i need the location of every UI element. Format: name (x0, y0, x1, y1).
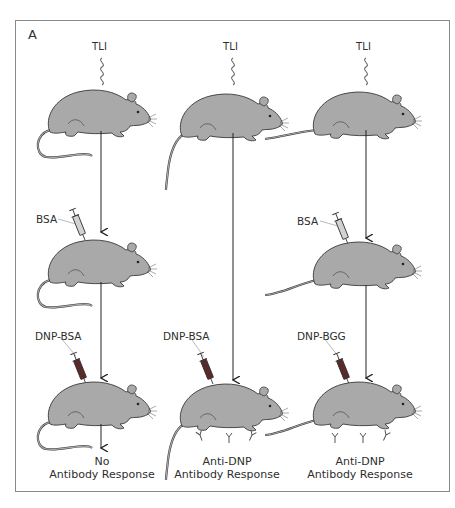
rat-col3-row2 (265, 242, 422, 295)
rat-col1-row1 (38, 90, 157, 158)
column-3 (265, 58, 422, 443)
column-2 (166, 58, 289, 480)
irradiation-wave-icon (365, 58, 368, 85)
column-1 (38, 58, 157, 450)
antibodies-col3-icon (332, 430, 390, 443)
irradiation-wave-icon (101, 58, 104, 85)
rat-col2-row1 (166, 94, 289, 190)
syringe-dnp-bsa-col1-icon (70, 352, 90, 386)
syringe-dnp-bgg-col3-icon (333, 352, 353, 386)
rat-col3-row1 (265, 92, 422, 139)
antibodies-col2-icon (196, 430, 257, 443)
syringe-dnp-bsa-col2-icon (197, 352, 217, 386)
syringe-bsa-col3-icon (332, 212, 352, 246)
irradiation-wave-icon (232, 58, 235, 85)
syringe-bsa-col1-icon (69, 208, 89, 242)
rat-col1-row2 (38, 240, 157, 308)
diagram-canvas (0, 0, 455, 508)
rat-col3-row3 (265, 382, 422, 435)
rat-col2-row3 (166, 384, 289, 480)
rat-col1-row3 (38, 382, 157, 450)
